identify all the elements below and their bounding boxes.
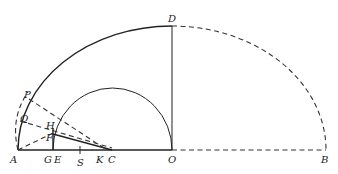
label-E: E [53,154,62,165]
label-O: O [168,154,176,165]
label-K: K [95,154,104,165]
outer-arc-dashed [172,26,326,150]
line-QC [20,121,112,148]
label-D: D [167,13,176,24]
label-C: C [108,154,116,165]
label-A: A [9,154,17,165]
line-PK [29,99,107,150]
label-B: B [320,154,328,165]
outer-arc-solid [18,26,172,150]
label-S: S [77,157,84,168]
label-G: G [44,154,52,165]
label-F: F [45,132,54,143]
inner-semicircle [53,88,172,150]
geometry-diagram: A G E S K C O B D P Q H F [0,0,338,174]
label-Q: Q [20,113,28,124]
label-H: H [45,120,55,131]
label-P: P [23,89,31,100]
